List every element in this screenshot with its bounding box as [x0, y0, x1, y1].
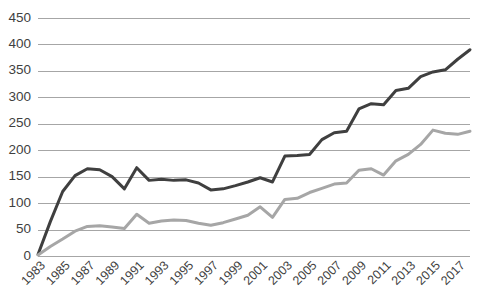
x-axis-tick-label: 2003 — [265, 258, 295, 288]
x-axis-tick-label: 2005 — [290, 258, 320, 288]
x-axis-tick-label: 1997 — [191, 258, 221, 288]
x-axis-tick-label: 1985 — [43, 258, 73, 288]
y-axis-tick-label: 200 — [8, 142, 31, 157]
x-axis-tick-label: 2013 — [389, 258, 419, 288]
gridlines — [38, 19, 470, 257]
series-line-light-series — [38, 130, 470, 255]
x-axis-tick-labels: 1983198519871989199119931995199719992001… — [19, 258, 468, 288]
y-axis-tick-label: 0 — [23, 248, 31, 263]
x-axis-tick-label: 1991 — [117, 258, 147, 288]
line-chart: 050100150200250300350400450 198319851987… — [0, 0, 480, 296]
x-axis-tick-label: 1983 — [19, 258, 49, 288]
y-axis-tick-label: 350 — [8, 62, 31, 77]
x-axis-tick-label: 2007 — [315, 258, 345, 288]
chart-canvas: 050100150200250300350400450 198319851987… — [0, 0, 480, 296]
x-axis-tick-label: 1989 — [93, 258, 123, 288]
y-axis-tick-label: 250 — [8, 115, 31, 130]
y-axis-tick-label: 400 — [8, 36, 31, 51]
x-axis-tick-label: 1995 — [167, 258, 197, 288]
x-axis-tick-label: 1999 — [216, 258, 246, 288]
y-axis-tick-label: 300 — [8, 89, 31, 104]
x-axis-tick-label: 2009 — [339, 258, 369, 288]
x-axis-tick-label: 2017 — [438, 258, 468, 288]
y-axis-tick-label: 100 — [8, 195, 31, 210]
y-axis-tick-label: 450 — [8, 10, 31, 25]
x-axis-tick-label: 1987 — [68, 258, 98, 288]
data-series — [38, 50, 470, 255]
x-axis-tick-label: 2001 — [241, 258, 271, 288]
y-axis-tick-label: 150 — [8, 168, 31, 183]
x-axis-tick-label: 1993 — [142, 258, 172, 288]
x-axis-tick-label: 2011 — [365, 258, 394, 287]
x-axis-tick-label: 2015 — [414, 258, 444, 288]
series-line-dark-series — [38, 50, 470, 255]
y-axis-tick-label: 50 — [16, 221, 31, 236]
y-axis-tick-labels: 050100150200250300350400450 — [8, 10, 31, 263]
